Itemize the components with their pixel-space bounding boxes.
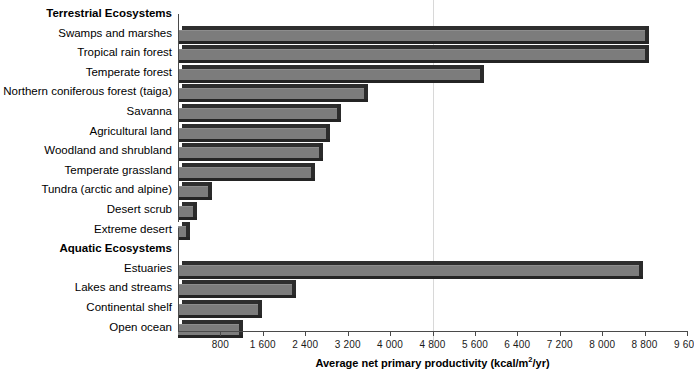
x-axis-tick-label: 1 600 — [250, 339, 276, 350]
category-label: Northern coniferous forest (taiga) — [0, 82, 172, 101]
category-label: Temperate forest — [0, 63, 172, 82]
x-axis-tick-label: 800 — [212, 339, 229, 350]
x-axis-tick-label: 5 600 — [462, 339, 488, 350]
bar-side-face — [186, 222, 190, 237]
x-axis-tick-label: 6 400 — [504, 339, 530, 350]
category-label: Agricultural land — [0, 122, 172, 141]
bar-front-face — [178, 30, 645, 41]
bar-front-face — [178, 284, 292, 295]
x-axis-tick — [390, 331, 391, 336]
axis-left-segment-aquatic — [178, 228, 179, 332]
category-label: Tropical rain forest — [0, 43, 172, 62]
bar — [178, 320, 243, 335]
category-label: Swamps and marshes — [0, 24, 172, 43]
x-axis-tick — [263, 331, 264, 336]
bar — [178, 182, 212, 197]
category-label: Desert scrub — [0, 200, 172, 219]
x-axis-tick-label: 9 600 — [674, 339, 694, 350]
x-axis-tick — [220, 331, 221, 336]
group-heading-label: Aquatic Ecosystems — [0, 239, 172, 258]
chart-row: Swamps and marshes — [0, 24, 694, 43]
x-axis-tick-label: 2 400 — [292, 339, 318, 350]
bar-side-face — [208, 182, 212, 197]
chart-row: Temperate forest — [0, 63, 694, 82]
bar — [178, 300, 262, 315]
bar-front-face — [178, 108, 337, 119]
chart-row: Savanna — [0, 102, 694, 121]
bar-front-face — [178, 128, 326, 139]
group-heading-row: Terrestrial Ecosystems — [0, 4, 694, 23]
x-axis-tick-label: 7 200 — [547, 339, 573, 350]
bar-side-face — [337, 104, 341, 119]
x-axis-tick-label: 8 000 — [589, 339, 615, 350]
category-label: Open ocean — [0, 318, 172, 337]
bar-front-face — [178, 69, 480, 80]
bar-front-face — [178, 186, 208, 197]
x-axis-tick — [687, 331, 688, 336]
chart-row: Woodland and shrubland — [0, 141, 694, 160]
x-axis-tick — [348, 331, 349, 336]
bar — [178, 261, 643, 276]
bar — [178, 26, 649, 41]
bar-front-face — [178, 88, 364, 99]
x-axis-title-before: Average net primary productivity (kcal/m — [315, 357, 528, 369]
x-axis-tick — [645, 331, 646, 336]
bar-side-face — [639, 261, 643, 276]
category-label: Temperate grassland — [0, 161, 172, 180]
bar-front-face — [178, 304, 258, 315]
x-axis-title-after: /yr) — [533, 357, 550, 369]
bar-side-face — [645, 45, 649, 60]
category-label: Lakes and streams — [0, 278, 172, 297]
chart-row: Desert scrub — [0, 200, 694, 219]
x-axis-title: Average net primary productivity (kcal/m… — [178, 355, 687, 369]
bar-side-face — [311, 163, 315, 178]
x-axis-tick-label: 8 800 — [632, 339, 658, 350]
category-label: Tundra (arctic and alpine) — [0, 180, 172, 199]
bar — [178, 202, 197, 217]
chart-row: Temperate grassland — [0, 161, 694, 180]
chart-row: Lakes and streams — [0, 278, 694, 297]
bar-front-face — [178, 265, 639, 276]
bar — [178, 280, 296, 295]
bar — [178, 65, 484, 80]
chart-row: Extreme desert — [0, 220, 694, 239]
bar — [178, 143, 323, 158]
bar-side-face — [645, 26, 649, 41]
x-axis-tick-label: 4 800 — [419, 339, 445, 350]
chart-row: Estuaries — [0, 259, 694, 278]
bar — [178, 163, 315, 178]
category-label: Continental shelf — [0, 298, 172, 317]
bar-side-face — [193, 202, 197, 217]
x-axis-tick — [517, 331, 518, 336]
axis-left-segment-terrestrial — [178, 14, 179, 222]
bar — [178, 222, 190, 237]
chart-row: Continental shelf — [0, 298, 694, 317]
chart-row: Tundra (arctic and alpine) — [0, 180, 694, 199]
chart-row: Northern coniferous forest (taiga) — [0, 82, 694, 101]
category-label: Savanna — [0, 102, 172, 121]
x-axis-tick — [602, 331, 603, 336]
group-heading-row: Aquatic Ecosystems — [0, 239, 694, 258]
category-label: Woodland and shrubland — [0, 141, 172, 160]
bar-side-face — [292, 280, 296, 295]
x-axis-tick-label: 4 000 — [377, 339, 403, 350]
bar-front-face — [178, 49, 645, 60]
bar — [178, 104, 341, 119]
x-axis-tick — [433, 331, 434, 336]
bar-front-face — [178, 167, 311, 178]
bar-side-face — [258, 300, 262, 315]
category-label: Extreme desert — [0, 220, 172, 239]
chart-row: Tropical rain forest — [0, 43, 694, 62]
chart-container: Terrestrial EcosystemsSwamps and marshes… — [0, 0, 694, 382]
x-axis-tick — [560, 331, 561, 336]
x-axis-tick-label: 3 200 — [335, 339, 361, 350]
bar-side-face — [239, 320, 243, 335]
bar-drop-shadow — [178, 335, 243, 338]
x-axis-tick — [475, 331, 476, 336]
bar — [178, 45, 649, 60]
bar-front-face — [178, 324, 239, 335]
bar — [178, 124, 330, 139]
bar — [178, 84, 368, 99]
bar-front-face — [178, 226, 186, 237]
bar-side-face — [364, 84, 368, 99]
